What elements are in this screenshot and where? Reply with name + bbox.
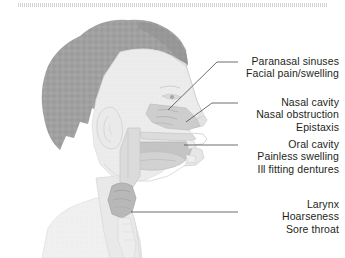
label-line: Epistaxis [256, 121, 339, 133]
label-line: Ill fitting dentures [257, 163, 339, 175]
label-group-paranasal-sinuses: Paranasal sinuses Facial pain/swelling [246, 55, 339, 80]
label-line: Larynx [282, 198, 339, 210]
figure-root: Paranasal sinuses Facial pain/swelling N… [0, 0, 345, 258]
label-line: Hoarseness [282, 210, 339, 222]
label-line: Nasal obstruction [256, 108, 339, 120]
label-line: Nasal cavity [256, 96, 339, 108]
label-group-larynx: Larynx Hoarseness Sore throat [282, 198, 339, 235]
label-line: Oral cavity [257, 138, 339, 150]
label-group-nasal-cavity: Nasal cavity Nasal obstruction Epistaxis [256, 96, 339, 133]
label-line: Sore throat [282, 223, 339, 235]
label-line: Painless swelling [257, 150, 339, 162]
label-line: Facial pain/swelling [246, 67, 339, 79]
label-line: Paranasal sinuses [246, 55, 339, 67]
label-group-oral-cavity: Oral cavity Painless swelling Ill fittin… [257, 138, 339, 175]
